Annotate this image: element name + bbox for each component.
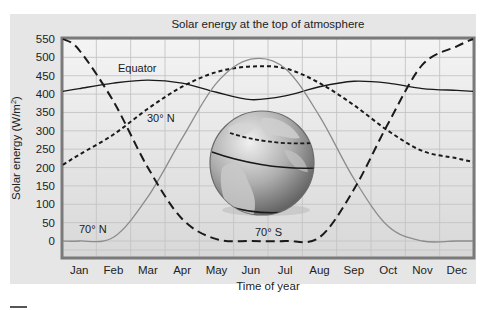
x-tick-label: May — [206, 264, 228, 276]
x-tick-label: Dec — [447, 264, 468, 276]
figure-mark — [10, 306, 27, 308]
label-equator: Equator — [118, 62, 157, 74]
y-tick-label: 350 — [36, 106, 55, 118]
y-tick-label: 50 — [42, 217, 55, 229]
x-tick-label: Oct — [379, 264, 398, 276]
y-tick-label: 150 — [36, 180, 55, 192]
chart-title: Solar energy at the top of atmosphere — [171, 18, 364, 30]
x-tick-label: Feb — [104, 264, 124, 276]
label-30n: 30° N — [147, 112, 175, 124]
y-tick-label: 400 — [36, 88, 55, 100]
x-axis-label: Time of year — [236, 280, 300, 292]
y-tick-label: 0 — [49, 235, 55, 247]
y-axis-label: Solar energy (W/m2) — [9, 96, 22, 200]
y-tick-label: 500 — [36, 51, 55, 63]
x-tick-label: Jul — [278, 264, 293, 276]
x-tick-label: Aug — [309, 264, 329, 276]
y-tick-label: 250 — [36, 143, 55, 155]
label-70n: 70° N — [79, 223, 107, 235]
chart-render: Solar energy at the top of atmosphere 05… — [0, 0, 500, 310]
label-70s: 70° S — [255, 226, 282, 238]
x-tick-label: Mar — [138, 264, 158, 276]
x-tick-label: Apr — [173, 264, 191, 276]
x-tick-label: Nov — [412, 264, 433, 276]
y-tick-label: 300 — [36, 125, 55, 137]
y-tick-label: 100 — [36, 198, 55, 210]
y-tick-label: 550 — [36, 33, 55, 45]
x-tick-label: Jun — [242, 264, 261, 276]
x-tick-label: Jan — [70, 264, 89, 276]
y-tick-label: 200 — [36, 162, 55, 174]
y-tick-label: 450 — [36, 70, 55, 82]
x-tick-label: Sep — [344, 264, 364, 276]
